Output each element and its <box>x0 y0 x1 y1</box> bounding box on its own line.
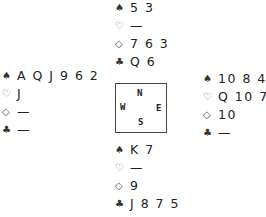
club-icon: ♣ <box>2 121 14 139</box>
heart-icon: ♡ <box>115 159 127 177</box>
spade-icon: ♠ <box>115 0 127 17</box>
compass-east-label: E <box>156 103 161 113</box>
west-spades: ♠ A Q J 9 6 2 <box>2 67 99 85</box>
west-diamonds: ◇ — <box>2 103 99 121</box>
east-spades: ♠ 10 8 4 <box>203 70 266 88</box>
west-clubs: ♣ — <box>2 121 99 139</box>
west-spades-cards: A Q J 9 6 2 <box>17 67 99 85</box>
south-diamonds: ◇ 9 <box>115 177 180 195</box>
north-clubs: ♣ Q 6 <box>115 53 169 71</box>
compass-west-label: W <box>120 102 125 112</box>
compass-north-label: N <box>137 88 142 98</box>
south-hearts-cards: — <box>130 159 144 177</box>
club-icon: ♣ <box>115 195 127 213</box>
north-clubs-cards: Q 6 <box>130 53 156 71</box>
west-hearts-cards: J <box>17 85 22 103</box>
west-hearts: ♡ J <box>2 85 99 103</box>
south-spades: ♠ K 7 <box>115 141 180 159</box>
east-clubs: ♣ — <box>203 124 266 142</box>
north-hearts-cards: — <box>130 17 144 35</box>
diamond-icon: ◇ <box>203 106 215 124</box>
south-spades-cards: K 7 <box>130 141 155 159</box>
north-hearts: ♡ — <box>115 17 169 35</box>
heart-icon: ♡ <box>115 17 127 35</box>
west-hand: ♠ A Q J 9 6 2 ♡ J ◇ — ♣ — <box>2 67 99 139</box>
south-hearts: ♡ — <box>115 159 180 177</box>
spade-icon: ♠ <box>203 70 215 88</box>
north-hand: ♠ 5 3 ♡ — ◇ 7 6 3 ♣ Q 6 <box>115 0 169 71</box>
east-hearts-cards: Q 10 7 <box>218 88 266 106</box>
south-diamonds-cards: 9 <box>130 177 139 195</box>
compass-south-label: S <box>138 117 143 127</box>
south-clubs: ♣ J 8 7 5 <box>115 195 180 213</box>
heart-icon: ♡ <box>203 88 215 106</box>
east-clubs-cards: — <box>218 124 232 142</box>
diamond-icon: ◇ <box>2 103 14 121</box>
club-icon: ♣ <box>115 53 127 71</box>
north-spades: ♠ 5 3 <box>115 0 169 17</box>
west-clubs-cards: — <box>17 121 31 139</box>
north-diamonds: ◇ 7 6 3 <box>115 35 169 53</box>
compass-box: N W E S <box>115 83 167 133</box>
west-diamonds-cards: — <box>17 103 31 121</box>
east-diamonds: ◇ 10 <box>203 106 266 124</box>
diamond-icon: ◇ <box>115 35 127 53</box>
diamond-icon: ◇ <box>115 177 127 195</box>
north-diamonds-cards: 7 6 3 <box>130 35 169 53</box>
east-hand: ♠ 10 8 4 ♡ Q 10 7 ◇ 10 ♣ — <box>203 70 266 142</box>
east-hearts: ♡ Q 10 7 <box>203 88 266 106</box>
spade-icon: ♠ <box>2 67 14 85</box>
spade-icon: ♠ <box>115 141 127 159</box>
north-spades-cards: 5 3 <box>130 0 154 17</box>
heart-icon: ♡ <box>2 85 14 103</box>
club-icon: ♣ <box>203 124 215 142</box>
south-clubs-cards: J 8 7 5 <box>130 195 180 213</box>
east-diamonds-cards: 10 <box>218 106 237 124</box>
south-hand: ♠ K 7 ♡ — ◇ 9 ♣ J 8 7 5 <box>115 141 180 213</box>
east-spades-cards: 10 8 4 <box>218 70 266 88</box>
